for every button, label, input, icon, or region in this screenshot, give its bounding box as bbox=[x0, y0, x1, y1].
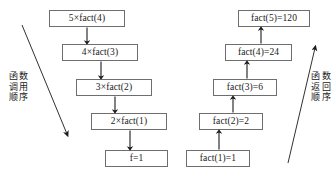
return-node-3-label: fact(3)=6 bbox=[227, 83, 263, 93]
call-node-4-label: 2×fact(1) bbox=[111, 117, 147, 127]
return-order-char-2: 数 bbox=[322, 71, 331, 82]
call-order-char-5: 顺 bbox=[9, 92, 18, 103]
return-node-4: fact(2)=2 bbox=[199, 113, 263, 130]
recursion-diagram: 5×fact(4) 4×fact(3) 3×fact(2) 2×fact(1) … bbox=[0, 0, 336, 189]
call-node-2-label: 4×fact(3) bbox=[82, 48, 118, 58]
return-order-char-6: 序 bbox=[322, 92, 331, 103]
call-order-diagonal-arrow bbox=[22, 25, 67, 134]
call-order-label-col2: 数 用 序 bbox=[19, 71, 28, 103]
return-node-2: fact(4)=24 bbox=[225, 44, 292, 61]
call-node-5-label: f=1 bbox=[130, 154, 144, 164]
call-node-4: 2×fact(1) bbox=[91, 113, 167, 130]
call-order-label-col1: 函 调 顺 bbox=[9, 71, 18, 103]
call-order-char-4: 用 bbox=[19, 82, 28, 93]
return-node-1: fact(5)=120 bbox=[238, 10, 310, 27]
return-node-2-label: fact(4)=24 bbox=[238, 48, 279, 58]
return-order-char-5: 顺 bbox=[311, 92, 320, 103]
call-node-1-label: 5×fact(4) bbox=[69, 14, 105, 24]
return-node-4-label: fact(2)=2 bbox=[213, 117, 249, 127]
call-node-3: 3×fact(2) bbox=[76, 79, 152, 96]
return-node-5: fact(1)=1 bbox=[186, 150, 250, 167]
return-order-char-4: 回 bbox=[322, 82, 331, 93]
call-node-3-label: 3×fact(2) bbox=[96, 83, 132, 93]
return-order-label-col1: 函 返 顺 bbox=[311, 71, 320, 103]
call-node-5: f=1 bbox=[105, 150, 168, 167]
call-order-char-3: 调 bbox=[9, 82, 18, 93]
call-order-char-6: 序 bbox=[19, 92, 28, 103]
call-order-char-2: 数 bbox=[19, 71, 28, 82]
return-node-1-label: fact(5)=120 bbox=[251, 14, 297, 24]
call-node-1: 5×fact(4) bbox=[49, 10, 125, 27]
return-order-char-3: 返 bbox=[311, 82, 320, 93]
return-node-5-label: fact(1)=1 bbox=[200, 154, 236, 164]
connector-arrows bbox=[0, 0, 336, 189]
return-order-char-1: 函 bbox=[311, 71, 320, 82]
return-order-label-col2: 数 回 序 bbox=[322, 71, 331, 103]
call-node-2: 4×fact(3) bbox=[62, 44, 138, 61]
return-node-3: fact(3)=6 bbox=[213, 79, 277, 96]
return-order-diagonal-arrow bbox=[288, 48, 315, 163]
call-order-char-1: 函 bbox=[9, 71, 18, 82]
